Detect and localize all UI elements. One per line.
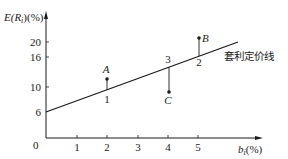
x-tick-2: 2 (104, 141, 110, 153)
point-2-label: 2 (196, 56, 202, 68)
x-tick-3: 3 (135, 141, 141, 153)
x-axis-label: bi(%) (238, 143, 263, 157)
apt-line (46, 42, 238, 112)
point-b-marker (197, 36, 201, 40)
point-b-label: B (202, 32, 209, 44)
y-tick-6: 6 (36, 106, 42, 118)
y-axis-arrow-icon (44, 11, 48, 19)
point-a-marker (105, 77, 109, 81)
apt-diagram: E(Ri)(%) 20 16 10 6 0 1 2 3 4 5 bi(%) 套利… (0, 0, 288, 159)
x-tick-5: 5 (195, 141, 201, 153)
chart-canvas: E(Ri)(%) 20 16 10 6 0 1 2 3 4 5 bi(%) 套利… (0, 0, 288, 159)
y-tick-16: 16 (30, 51, 42, 63)
point-a-label: A (102, 63, 110, 75)
x-tick-4: 4 (165, 141, 171, 153)
y-axis-label: E(Ri)(%) (3, 11, 44, 25)
origin-label: 0 (33, 139, 39, 151)
x-tick-1: 1 (74, 141, 80, 153)
y-tick-20: 20 (30, 36, 42, 48)
x-axis-arrow-icon (255, 136, 263, 140)
point-1-label: 1 (104, 93, 110, 105)
point-c-label: C (164, 94, 172, 106)
y-tick-10: 10 (30, 81, 42, 93)
apt-line-label: 套利定价线 (224, 50, 275, 62)
point-3-label: 3 (165, 53, 171, 65)
